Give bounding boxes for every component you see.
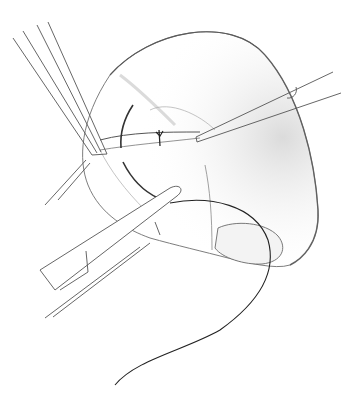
surgical-illustration [0,0,355,398]
illustration-drawing [0,0,355,398]
